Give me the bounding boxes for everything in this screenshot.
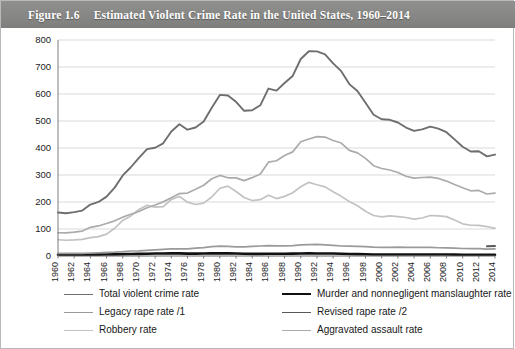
legend-swatch: [282, 330, 311, 331]
figure-title: Estimated Violent Crime Rate in the Unit…: [94, 9, 410, 21]
legend-item[interactable]: Aggravated assault rate: [282, 324, 423, 336]
chart-legend: Total violent crime rateLegacy rape rate…: [1, 284, 515, 348]
legend-item[interactable]: Legacy rape rate /1: [64, 306, 185, 318]
legend-swatch: [282, 312, 311, 313]
x-axis-tick-label: 1972: [147, 262, 157, 282]
y-axis-tick-label: 200: [35, 196, 51, 207]
figure-number: Figure 1.6: [28, 9, 80, 21]
x-axis-tick-label: 1976: [179, 262, 189, 282]
x-axis-tick-label: 2010: [455, 262, 465, 282]
x-axis-tick-label: 2002: [390, 262, 400, 282]
legend-label: Total violent crime rate: [99, 288, 199, 300]
y-axis-tick-label: 300: [35, 169, 51, 180]
x-axis-tick-label: 1990: [293, 262, 303, 282]
series-line: [58, 253, 495, 255]
legend-item[interactable]: Murder and nonnegligent manslaughter rat…: [282, 288, 512, 300]
x-axis-tick-label: 1964: [82, 262, 92, 282]
y-axis-tick-label: 400: [35, 142, 51, 153]
y-axis-tick-label: 500: [35, 115, 51, 126]
legend-swatch: [64, 330, 93, 331]
x-axis-tick-label: 1970: [131, 262, 141, 282]
legend-swatch: [282, 293, 311, 295]
legend-label: Legacy rape rate /1: [99, 306, 185, 318]
legend-label: Robbery rate: [99, 324, 157, 336]
x-axis-tick-label: 1996: [341, 262, 351, 282]
figure-title-bar: Figure 1.6 Estimated Violent Crime Rate …: [1, 1, 515, 28]
y-axis-tick-label: 600: [35, 88, 51, 99]
y-axis-tick-labels: 0100200300400500600700800: [35, 34, 51, 261]
y-axis-tick-label: 0: [46, 250, 51, 261]
x-axis-tick-label: 1982: [228, 262, 238, 282]
legend-label: Murder and nonnegligent manslaughter rat…: [317, 288, 512, 300]
series-line: [58, 137, 495, 233]
x-axis-tick-label: 1994: [325, 262, 335, 282]
legend-swatch: [64, 294, 93, 295]
x-axis-tick-labels: 1960196219641966196819701972197419761978…: [50, 262, 497, 282]
x-axis-tick-label: 1978: [196, 262, 206, 282]
legend-label: Aggravated assault rate: [317, 324, 423, 336]
legend-swatch: [64, 312, 93, 313]
x-axis-tick-label: 1960: [50, 262, 60, 282]
x-axis-tick-label: 1992: [309, 262, 319, 282]
x-axis-tick-label: 2006: [422, 262, 432, 282]
x-axis-tick-label: 1966: [99, 262, 109, 282]
legend-item[interactable]: Total violent crime rate: [64, 288, 199, 300]
x-axis-tick-label: 2008: [438, 262, 448, 282]
x-axis-tick-label: 1968: [115, 262, 125, 282]
x-axis-tick-label: 1984: [244, 262, 254, 282]
legend-label: Revised rape rate /2: [317, 306, 407, 318]
x-axis-tick-label: 1974: [163, 262, 173, 282]
y-axis-tick-label: 100: [35, 223, 51, 234]
x-axis-tick-label: 1988: [277, 262, 287, 282]
x-axis-tick-label: 1962: [66, 262, 76, 282]
legend-item[interactable]: Robbery rate: [64, 324, 157, 336]
legend-item[interactable]: Revised rape rate /2: [282, 306, 407, 318]
series-lines: [58, 51, 495, 254]
x-axis-tick-label: 1980: [212, 262, 222, 282]
y-axis-tick-label: 800: [35, 34, 51, 45]
gridlines: [58, 40, 495, 259]
x-axis-tick-label: 2014: [487, 262, 497, 282]
x-axis-tick-label: 2004: [406, 262, 416, 282]
x-axis-tick-label: 1986: [260, 262, 270, 282]
y-axis-tick-label: 700: [35, 61, 51, 72]
series-line: [58, 182, 495, 240]
series-line: [58, 51, 495, 213]
x-axis-tick-label: 2000: [374, 262, 384, 282]
x-axis-tick-label: 2012: [471, 262, 481, 282]
x-axis-tick-label: 1998: [358, 262, 368, 282]
series-line: [58, 244, 495, 253]
